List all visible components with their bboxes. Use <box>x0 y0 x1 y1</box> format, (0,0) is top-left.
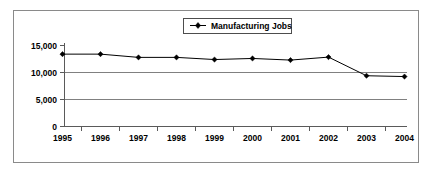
chart-frame: Manufacturing Jobs 15,000 <box>13 10 419 163</box>
x-label-2003: 2003 <box>357 133 376 143</box>
y-label-5000: 5,000 <box>36 95 58 105</box>
x-label-1995: 1995 <box>53 133 72 143</box>
data-point-1996[interactable] <box>98 52 103 57</box>
x-label-1999: 1999 <box>205 133 224 143</box>
y-label-15000: 15,000 <box>31 41 57 51</box>
x-label-2002: 2002 <box>319 133 338 143</box>
chart-legend: Manufacturing Jobs <box>183 18 292 33</box>
x-label-2000: 2000 <box>243 133 262 143</box>
x-axis-labels: 1995 1996 1997 1998 1999 2000 2001 2002 … <box>53 133 414 143</box>
axes <box>60 43 407 131</box>
x-label-2001: 2001 <box>281 133 300 143</box>
y-axis-labels: 15,000 10,000 5,000 0 <box>31 41 57 132</box>
y-label-10000: 10,000 <box>31 68 57 78</box>
gridlines <box>64 73 407 100</box>
x-label-1996: 1996 <box>91 133 110 143</box>
line-chart: Manufacturing Jobs 15,000 <box>14 11 418 162</box>
x-label-1998: 1998 <box>167 133 186 143</box>
data-series-manufacturing-jobs <box>60 52 407 80</box>
data-point-2001[interactable] <box>288 57 293 62</box>
data-point-1999[interactable] <box>212 57 217 62</box>
data-point-2002[interactable] <box>326 55 331 60</box>
data-point-2000[interactable] <box>250 56 255 61</box>
series-line <box>63 54 405 76</box>
data-point-2004[interactable] <box>402 74 407 79</box>
data-point-1998[interactable] <box>174 55 179 60</box>
data-point-2003[interactable] <box>364 73 369 78</box>
x-label-1997: 1997 <box>129 133 148 143</box>
x-label-2004: 2004 <box>395 133 414 143</box>
legend-label: Manufacturing Jobs <box>211 21 292 31</box>
data-point-1997[interactable] <box>136 55 141 60</box>
y-label-0: 0 <box>52 122 57 132</box>
